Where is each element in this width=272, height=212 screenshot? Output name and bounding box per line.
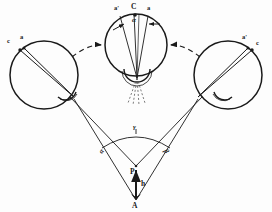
label-point-P: P bbox=[130, 168, 135, 176]
optical-diagram-figure: c a a' C a α a' c α β γ P h A bbox=[0, 0, 272, 212]
label-center-eye-a: a bbox=[147, 5, 150, 12]
label-center-eye-C: C bbox=[131, 3, 136, 11]
label-right-eye-a-prime: a' bbox=[242, 34, 247, 41]
left-eye-axis-a bbox=[24, 48, 74, 97]
right-eye-axis-c bbox=[198, 50, 252, 97]
right-eye-group bbox=[194, 41, 262, 109]
label-center-eye-alpha: α bbox=[132, 17, 136, 24]
left-eye-group bbox=[10, 41, 78, 109]
point-P-dot bbox=[135, 165, 138, 168]
left-eye-axis-c bbox=[20, 50, 74, 97]
label-height-h: h bbox=[141, 180, 145, 188]
diagram-canvas bbox=[0, 0, 272, 212]
right-eye-point-c bbox=[250, 48, 253, 51]
right-eye-axis-a-prime bbox=[198, 48, 248, 97]
line-left-node-to-P bbox=[70, 97, 136, 166]
label-left-eye-c: c bbox=[7, 38, 10, 45]
left-eye-point-c bbox=[18, 48, 21, 51]
label-center-eye-a-prime: a' bbox=[114, 5, 119, 12]
center-eye-group bbox=[105, 13, 167, 105]
rotation-arc-left bbox=[72, 45, 102, 57]
label-left-eye-a: a bbox=[20, 34, 23, 41]
rotation-arc-right bbox=[170, 45, 200, 57]
label-angle-gamma: γ bbox=[133, 124, 136, 131]
right-eye-point-a-prime bbox=[247, 47, 250, 50]
angle-arc-gamma bbox=[102, 137, 170, 148]
label-right-eye-c: c bbox=[256, 40, 259, 47]
center-eye-globe bbox=[105, 14, 167, 76]
line-right-node-to-P bbox=[136, 97, 202, 166]
line-left-node-to-A bbox=[74, 99, 136, 200]
center-arrow-left-mark bbox=[113, 24, 124, 30]
left-eye-point-a bbox=[23, 47, 26, 50]
label-point-A: A bbox=[132, 202, 137, 210]
